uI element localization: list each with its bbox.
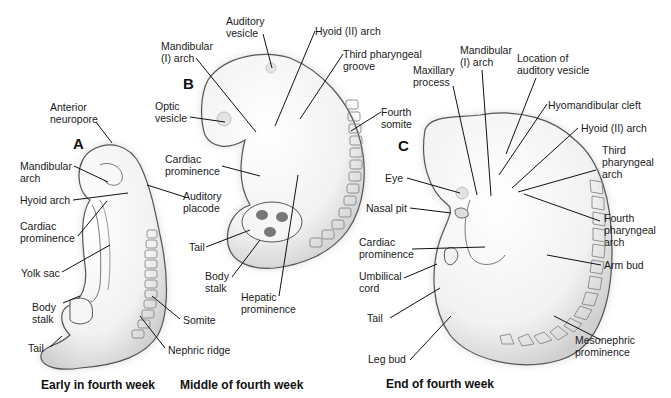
- label-anterior-neuropore: Anterior neuropore: [50, 101, 98, 125]
- label-nephric-ridge: Nephric ridge: [168, 344, 230, 356]
- panel-letter-c: C: [398, 137, 409, 154]
- label-mandibular-i-arch-c: Mandibular (I) arch: [460, 44, 512, 68]
- label-mesonephric-prominence: Mesonephric prominence: [575, 334, 635, 358]
- label-cardiac-prominence-b: Cardiac prominence: [165, 153, 220, 177]
- panel-letter-b: B: [183, 75, 194, 92]
- label-maxillary-process: Maxillary process: [413, 64, 454, 88]
- embryo-b: [202, 54, 365, 268]
- label-cardiac-prominence-a: Cardiac prominence: [20, 220, 75, 244]
- label-cardiac-prominence-c: Cardiac prominence: [359, 236, 414, 260]
- label-nasal-pit: Nasal pit: [366, 202, 407, 214]
- label-hyomandibular-cleft: Hyomandibular cleft: [548, 99, 641, 111]
- label-body-stalk-b: Body stalk: [205, 270, 229, 294]
- label-location-auditory-vesicle: Location of auditory vesicle: [517, 52, 589, 76]
- label-hyoid-ii-arch-b: Hyoid (II) arch: [315, 25, 381, 37]
- label-tail-a: Tail: [28, 342, 44, 354]
- panel-letter-a: A: [73, 135, 84, 152]
- label-hepatic-prominence: Hepatic prominence: [241, 291, 296, 315]
- label-hyoid-arch: Hyoid arch: [20, 194, 70, 206]
- label-fourth-somite: Fourth somite: [381, 106, 412, 130]
- label-tail-c: Tail: [367, 312, 383, 324]
- label-third-pharyngeal-groove: Third pharyngeal groove: [343, 48, 422, 72]
- label-leg-bud: Leg bud: [368, 353, 406, 365]
- label-yolk-sac: Yolk sac: [21, 267, 60, 279]
- label-mandibular-arch: Mandibular arch: [20, 160, 72, 184]
- label-fourth-pharyngeal-arch: Fourth pharyngeal arch: [604, 212, 656, 248]
- label-tail-b: Tail: [189, 241, 205, 253]
- label-eye: Eye: [385, 172, 403, 184]
- label-optic-vesicle: Optic vesicle: [155, 100, 187, 124]
- label-somite: Somite: [183, 314, 216, 326]
- label-auditory-placode: Auditory placode: [183, 190, 222, 214]
- label-hyoid-ii-arch-c: Hyoid (II) arch: [581, 122, 647, 134]
- label-auditory-vesicle-b: Auditory vesicle: [226, 15, 265, 39]
- label-mandibular-i-arch-b: Mandibular (I) arch: [161, 40, 213, 64]
- embryo-c: [424, 113, 612, 365]
- label-body-stalk-a: Body stalk: [32, 301, 56, 325]
- caption-a: Early in fourth week: [41, 378, 155, 392]
- label-umbilical-cord: Umbilical cord: [359, 270, 402, 294]
- label-third-pharyngeal-arch: Third pharyngeal arch: [602, 144, 654, 180]
- caption-b: Middle of fourth week: [180, 378, 303, 392]
- label-arm-bud: Arm bud: [604, 259, 644, 271]
- caption-c: End of fourth week: [386, 377, 494, 391]
